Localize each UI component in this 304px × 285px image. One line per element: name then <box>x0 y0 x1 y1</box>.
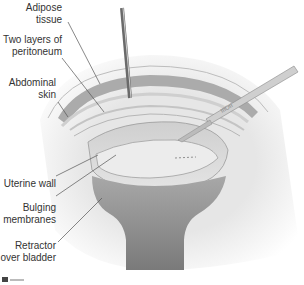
cesarean-illustration: IIIOII Adipose tissue Two layers of peri… <box>0 0 304 285</box>
label-adipose-tissue: Adipose tissue <box>26 2 62 26</box>
figure-marker <box>2 277 8 282</box>
figure-marker-bar <box>10 279 24 281</box>
label-abdominal-skin: Abdominal skin <box>9 77 56 101</box>
label-retractor-over-bladder: Retractor over bladder <box>0 240 56 264</box>
label-two-layers-of-peritoneum: Two layers of peritoneum <box>3 34 62 58</box>
label-bulging-membranes: Bulging membranes <box>3 202 56 226</box>
label-uterine-wall: Uterine wall <box>4 178 56 190</box>
